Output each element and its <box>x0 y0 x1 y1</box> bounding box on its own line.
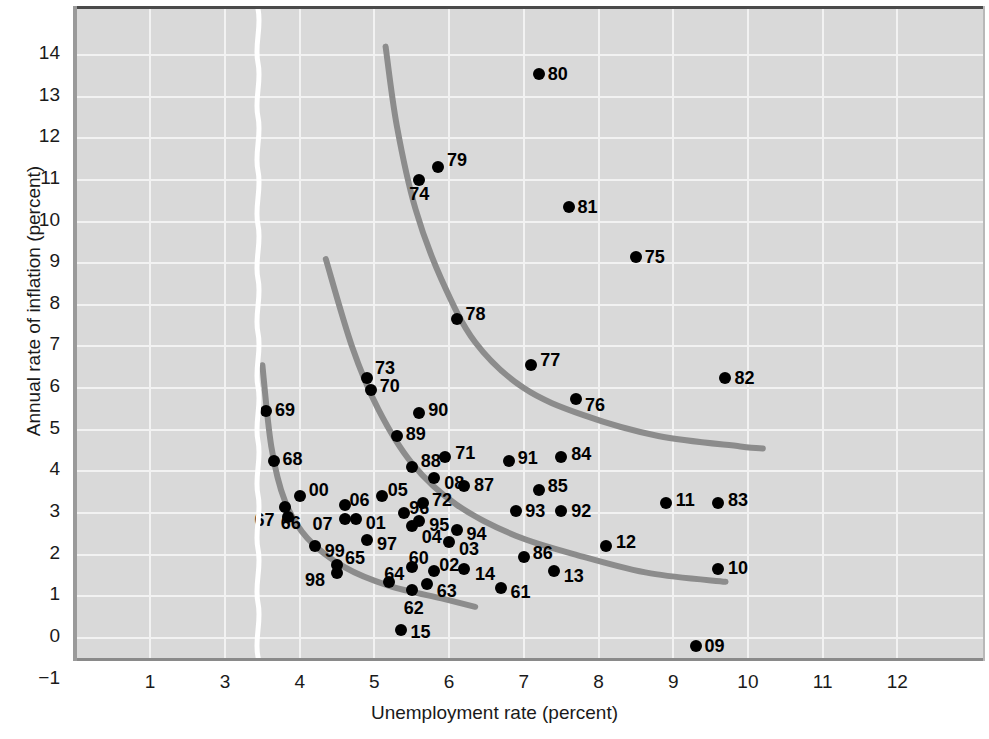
data-point <box>406 461 418 473</box>
x-tick-label: 8 <box>569 672 629 691</box>
data-point-label: 13 <box>564 567 584 585</box>
data-point <box>309 540 321 552</box>
data-point <box>533 68 545 80</box>
data-point-label: 61 <box>510 583 530 601</box>
data-point-label: 80 <box>548 65 568 83</box>
data-point-label: 86 <box>533 544 553 562</box>
data-point <box>630 251 642 263</box>
data-point-label: 75 <box>645 248 665 266</box>
data-point-label: 00 <box>309 481 329 499</box>
data-point <box>421 578 433 590</box>
data-point <box>406 584 418 596</box>
data-point-label: 76 <box>585 396 605 414</box>
y-axis-title: Annual rate of inflation (percent) <box>23 101 45 501</box>
data-point <box>365 384 377 396</box>
y-tick-label: 2 <box>8 543 60 562</box>
data-point-label: 04 <box>422 528 442 546</box>
data-point <box>533 484 545 496</box>
data-point <box>451 524 463 536</box>
x-tick-label: 1 <box>120 672 180 691</box>
y-tick-label: 1 <box>8 584 60 603</box>
data-point-label: 84 <box>571 445 591 463</box>
phillips-curve-figure: 6061626364656667686970717273747576777879… <box>0 0 989 739</box>
data-point-label: 05 <box>388 481 408 499</box>
data-point-label: 92 <box>571 502 591 520</box>
data-point <box>660 497 672 509</box>
data-point-label: 74 <box>409 185 429 203</box>
x-tick-label: 6 <box>419 672 479 691</box>
data-point-label: 81 <box>578 198 598 216</box>
data-point-label: 85 <box>548 477 568 495</box>
data-point-label: 79 <box>447 151 467 169</box>
data-point-label: 93 <box>525 502 545 520</box>
x-tick-label: 9 <box>643 672 703 691</box>
data-point-label: 99 <box>325 542 345 560</box>
data-point-label: 98 <box>305 571 325 589</box>
data-point <box>350 513 362 525</box>
x-tick-label: 5 <box>344 672 404 691</box>
data-point-label: 70 <box>380 377 400 395</box>
data-point-label: 10 <box>728 559 748 577</box>
data-point <box>570 393 582 405</box>
data-point-label: 65 <box>345 549 365 567</box>
data-point-label: 03 <box>459 540 479 558</box>
data-point-label: 02 <box>439 556 459 574</box>
data-point-label: 01 <box>366 514 386 532</box>
data-point <box>361 534 373 546</box>
data-point-label: 78 <box>466 305 486 323</box>
data-point <box>339 513 351 525</box>
plot-right-border <box>983 6 985 661</box>
data-point <box>451 313 463 325</box>
y-tick-label: 14 <box>8 43 60 62</box>
plot-area: 6061626364656667686970717273747576777879… <box>73 6 985 661</box>
data-point <box>555 505 567 517</box>
data-point-label: 14 <box>475 565 495 583</box>
data-point <box>391 430 403 442</box>
data-point <box>563 201 575 213</box>
data-point-label: 87 <box>474 476 494 494</box>
x-tick-label: 12 <box>867 672 927 691</box>
data-point <box>406 520 418 532</box>
data-point-label: 60 <box>409 549 429 567</box>
data-point <box>361 372 373 384</box>
data-point <box>548 565 560 577</box>
data-point-label: 73 <box>375 359 395 377</box>
curve-short-run-phillips-curve-1980s <box>386 47 763 449</box>
plot-left-border <box>73 6 77 661</box>
data-point-label: 06 <box>350 491 370 509</box>
data-point-label: 97 <box>377 535 397 553</box>
data-point-label: 96 <box>409 499 429 517</box>
data-point-label: 90 <box>428 401 448 419</box>
data-point-label: 09 <box>705 637 725 655</box>
data-point-label: 88 <box>421 452 441 470</box>
data-point-label: 11 <box>676 491 695 509</box>
data-point-label: 68 <box>283 450 303 468</box>
data-point <box>712 497 724 509</box>
data-point-label: 77 <box>540 351 560 369</box>
data-point <box>294 490 306 502</box>
x-tick-label: 11 <box>793 672 853 691</box>
data-point-label: 83 <box>728 491 748 509</box>
data-point <box>428 472 440 484</box>
y-tick-label: 3 <box>8 501 60 520</box>
phillips-curves <box>73 9 985 661</box>
data-point-label: 64 <box>384 565 404 583</box>
data-point-label: 71 <box>455 444 475 462</box>
data-point-label: 62 <box>404 599 424 617</box>
data-point <box>555 451 567 463</box>
data-point-label: 08 <box>444 474 464 492</box>
axis-break-wavy-line <box>249 9 267 661</box>
data-point-label: 07 <box>313 515 333 533</box>
data-point-label: 89 <box>406 425 426 443</box>
data-point <box>395 624 407 636</box>
data-point-label: 69 <box>275 401 295 419</box>
y-tick-label: 0 <box>8 626 60 645</box>
x-tick-label: 3 <box>195 672 255 691</box>
x-tick-label: 10 <box>718 672 778 691</box>
data-point-label: 82 <box>734 369 754 387</box>
data-point <box>268 455 280 467</box>
data-point-label: 63 <box>437 582 457 600</box>
data-point-label: 15 <box>411 623 431 641</box>
x-tick-label: 4 <box>270 672 330 691</box>
data-point <box>690 640 702 652</box>
